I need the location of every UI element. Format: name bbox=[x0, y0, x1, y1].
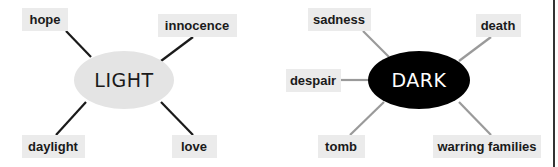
node-label: hope bbox=[29, 12, 60, 27]
connector-death bbox=[459, 37, 491, 61]
light-node-love: love bbox=[172, 135, 217, 158]
light-node-hope: hope bbox=[22, 8, 68, 31]
light-center-node: LIGHT bbox=[74, 51, 174, 109]
node-label: despair bbox=[290, 73, 336, 88]
connector-warring-families bbox=[459, 102, 491, 135]
dark-center-node: DARK bbox=[368, 51, 470, 109]
word-association-diagrams: LIGHT hope innocence daylight love bbox=[0, 0, 558, 167]
connector-daylight bbox=[56, 102, 86, 135]
node-label: love bbox=[181, 139, 207, 154]
light-diagram: LIGHT hope innocence daylight love bbox=[22, 8, 237, 158]
connector-innocence bbox=[161, 37, 193, 61]
dark-node-death: death bbox=[476, 14, 521, 37]
connector-tomb bbox=[350, 102, 384, 135]
dark-diagram: DARK sadness death despair tomb warring … bbox=[286, 8, 541, 158]
node-label: sadness bbox=[313, 12, 365, 27]
light-node-innocence: innocence bbox=[158, 14, 237, 37]
node-label: daylight bbox=[28, 139, 79, 154]
node-label: warring families bbox=[437, 139, 537, 154]
dark-node-warring-families: warring families bbox=[433, 135, 541, 158]
dark-node-tomb: tomb bbox=[318, 135, 365, 158]
connector-sadness bbox=[363, 31, 389, 57]
dark-node-sadness: sadness bbox=[308, 8, 371, 31]
node-label: tomb bbox=[325, 139, 357, 154]
connector-hope bbox=[66, 31, 91, 57]
dark-center-label: DARK bbox=[392, 69, 447, 91]
dark-node-despair: despair bbox=[286, 69, 341, 92]
node-label: death bbox=[481, 18, 516, 33]
light-center-label: LIGHT bbox=[94, 69, 153, 91]
node-label: innocence bbox=[165, 18, 229, 33]
light-node-daylight: daylight bbox=[22, 135, 85, 158]
connector-love bbox=[161, 102, 193, 135]
